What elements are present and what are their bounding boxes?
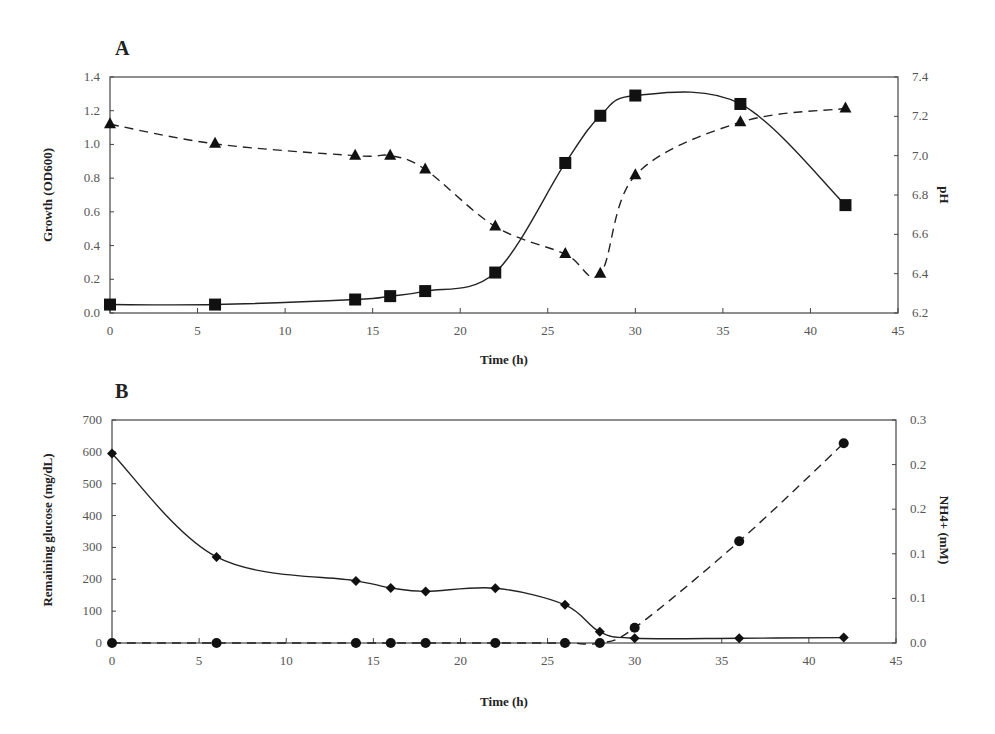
circle-marker <box>560 638 570 648</box>
circle-marker <box>595 638 605 648</box>
x-tick-label: 5 <box>196 653 203 668</box>
square-marker <box>839 199 851 211</box>
triangle-marker <box>104 117 116 128</box>
circle-marker <box>351 638 361 648</box>
triangle-marker <box>384 149 396 160</box>
y2-tick-label: 0.0 <box>910 635 926 650</box>
y-axis-label: Growth (OD600) <box>40 148 55 242</box>
y-tick-label: 600 <box>83 444 103 459</box>
diamond-marker <box>490 583 500 593</box>
y-tick-label: 700 <box>83 412 103 427</box>
square-marker <box>594 110 606 122</box>
x-tick-label: 20 <box>454 653 467 668</box>
circle-marker <box>212 638 222 648</box>
x-axis-label: Time (h) <box>480 352 528 367</box>
series-line <box>110 108 845 277</box>
plot-frame <box>110 77 898 313</box>
series-line <box>112 443 844 644</box>
x-tick-label: 45 <box>890 653 903 668</box>
diamond-marker <box>734 633 744 643</box>
square-marker <box>104 299 116 311</box>
figure-canvas: A0510152025303540450.00.20.40.60.81.01.2… <box>0 0 995 734</box>
y-tick-label: 1.4 <box>84 69 101 84</box>
y2-tick-label: 6.4 <box>912 266 929 281</box>
circle-marker <box>839 438 849 448</box>
diamond-marker <box>560 600 570 610</box>
triangle-marker <box>839 101 851 112</box>
y-tick-label: 500 <box>83 476 103 491</box>
triangle-marker <box>419 162 431 173</box>
x-tick-label: 15 <box>367 653 380 668</box>
diamond-marker <box>421 586 431 596</box>
y-tick-label: 0.2 <box>84 271 100 286</box>
triangle-marker <box>209 137 221 148</box>
square-marker <box>419 285 431 297</box>
y-tick-label: 0.6 <box>84 204 101 219</box>
diamond-marker <box>630 633 640 643</box>
x-tick-label: 25 <box>541 653 554 668</box>
diamond-marker <box>595 627 605 637</box>
square-marker <box>384 290 396 302</box>
x-tick-label: 20 <box>454 323 467 338</box>
y-tick-label: 1.2 <box>84 103 100 118</box>
y2-tick-label: 0.3 <box>910 412 926 427</box>
x-tick-label: 25 <box>541 323 554 338</box>
diamond-marker <box>212 552 222 562</box>
y-tick-label: 300 <box>83 539 103 554</box>
y2-tick-label: 6.8 <box>912 187 928 202</box>
series-line <box>112 453 844 638</box>
y2-axis-label: pH <box>937 186 952 203</box>
triangle-marker <box>594 267 606 278</box>
x-tick-label: 10 <box>279 323 292 338</box>
y-tick-label: 200 <box>83 571 103 586</box>
y2-tick-label: 6.6 <box>912 226 929 241</box>
x-tick-label: 0 <box>109 653 116 668</box>
y-tick-label: 0 <box>96 635 103 650</box>
x-tick-label: 30 <box>629 323 642 338</box>
y2-tick-label: 7.0 <box>912 148 928 163</box>
y2-tick-label: 0.2 <box>910 457 926 472</box>
series-nh4- <box>107 438 849 648</box>
chart-panel-b: B051015202530354045010020030040050060070… <box>40 380 952 709</box>
circle-marker <box>421 638 431 648</box>
triangle-marker <box>629 168 641 179</box>
triangle-marker <box>489 219 501 230</box>
square-marker <box>349 294 361 306</box>
y-tick-label: 0.8 <box>84 170 100 185</box>
series-ph <box>104 101 851 277</box>
y2-tick-label: 0.2 <box>910 501 926 516</box>
y-tick-label: 400 <box>83 508 103 523</box>
square-marker <box>734 98 746 110</box>
circle-marker <box>630 623 640 633</box>
x-tick-label: 45 <box>892 323 905 338</box>
x-tick-label: 15 <box>366 323 379 338</box>
y2-tick-label: 6.2 <box>912 305 928 320</box>
diamond-marker <box>839 633 849 643</box>
y-tick-label: 0.4 <box>84 238 101 253</box>
diamond-marker <box>386 583 396 593</box>
circle-marker <box>107 638 117 648</box>
triangle-marker <box>734 115 746 126</box>
y2-tick-label: 0.1 <box>910 590 926 605</box>
panel-label: A <box>115 37 130 59</box>
diamond-marker <box>351 576 361 586</box>
panel-label: B <box>115 380 128 402</box>
y-tick-label: 100 <box>83 603 103 618</box>
y2-tick-label: 7.4 <box>912 69 929 84</box>
y2-tick-label: 7.2 <box>912 108 928 123</box>
y-axis-label: Remaining glucose (mg/dL) <box>40 453 55 606</box>
x-tick-label: 30 <box>628 653 641 668</box>
x-tick-label: 0 <box>107 323 114 338</box>
y2-tick-label: 0.1 <box>910 546 926 561</box>
plot-frame <box>112 420 896 643</box>
square-marker <box>629 90 641 102</box>
y-tick-label: 1.0 <box>84 136 100 151</box>
x-tick-label: 10 <box>280 653 293 668</box>
x-tick-label: 40 <box>802 653 815 668</box>
square-marker <box>209 299 221 311</box>
circle-marker <box>734 536 744 546</box>
circle-marker <box>490 638 500 648</box>
x-tick-label: 35 <box>715 653 728 668</box>
square-marker <box>489 267 501 279</box>
triangle-marker <box>349 149 361 160</box>
